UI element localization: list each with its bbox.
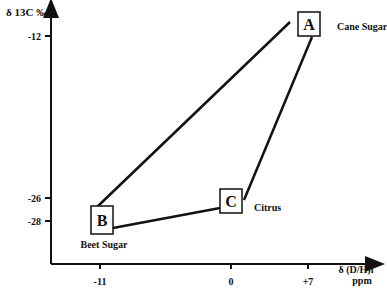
x-tick-label: +7 — [303, 276, 314, 287]
edge-b-c — [113, 208, 220, 228]
node-label: Citrus — [254, 202, 281, 213]
y-tick-label: -26 — [28, 193, 41, 204]
node-letter: A — [303, 16, 315, 33]
node-c: CCitrus — [220, 189, 281, 213]
isotope-diagram: -12-26-28-110+7 ACane SugarBBeet SugarCC… — [0, 0, 387, 301]
node-letter: B — [97, 212, 108, 229]
y-axis-label: δ 13C ‰ — [6, 6, 47, 18]
node-label: Cane Sugar — [337, 21, 387, 32]
node-label: Beet Sugar — [81, 239, 129, 250]
edge-a-b — [97, 22, 290, 207]
node-b: BBeet Sugar — [81, 206, 129, 250]
x-tick-label: 0 — [229, 276, 234, 287]
x-axis-unit: ppm — [352, 275, 372, 286]
node-letter: C — [225, 193, 237, 210]
y-tick-label: -28 — [28, 216, 41, 227]
x-tick-label: -11 — [94, 276, 107, 287]
y-tick-label: -12 — [28, 31, 41, 42]
node-a: ACane Sugar — [298, 12, 387, 36]
edge-c-a — [244, 37, 312, 200]
